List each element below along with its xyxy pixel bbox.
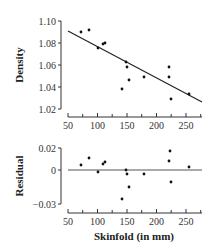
y-tick-label: 1.06 [39,60,57,71]
x-tick-label: 250 [179,216,194,227]
y-tick-label: 0.02 [39,143,57,154]
density-y-axis-title: Density [13,47,25,83]
density-points [80,29,191,101]
x-tick-label: 50 [63,120,73,131]
regression-line [68,31,202,102]
residual-chart: 0.02 0 −0.03 Residual 50 100 150 200 250… [13,143,202,244]
x-tick-label: 200 [149,120,164,131]
density-chart: 1.10 1.08 1.06 1.04 1.02 Density 50 100 … [13,16,202,132]
y-tick-label: 1.04 [39,82,57,93]
x-tick-label: 100 [90,216,105,227]
x-tick-label: 200 [149,216,164,227]
y-tick-label: 1.02 [39,104,57,115]
y-tick-label: 0 [51,165,56,176]
y-tick-label: 1.10 [39,16,57,27]
y-tick-label: 1.08 [39,38,57,49]
x-tick-label: 150 [120,120,135,131]
x-tick-label: 50 [63,216,73,227]
residual-y-axis-title: Residual [13,156,25,197]
x-tick-label: 250 [179,120,194,131]
y-tick-label: −0.03 [33,199,56,210]
residual-points [80,150,191,201]
x-tick-label: 150 [120,216,135,227]
x-tick-label: 100 [90,120,105,131]
chart-figure: 1.10 1.08 1.06 1.04 1.02 Density 50 100 … [0,0,213,251]
x-axis-title: Skinfold (in mm) [94,230,174,243]
